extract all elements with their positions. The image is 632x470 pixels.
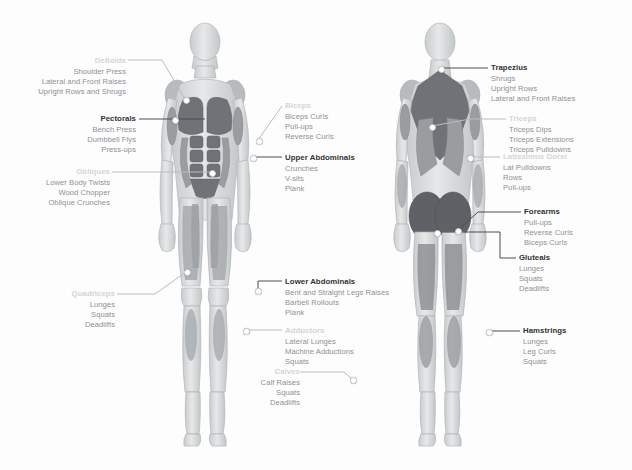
left-foot bbox=[184, 434, 201, 446]
callout-forearms-exercise-2: Reverse Curls bbox=[524, 228, 614, 238]
right-foot-back bbox=[444, 434, 461, 446]
callout-gluteals-exercise-1: Lunges bbox=[519, 264, 599, 274]
callout-upper-abdominals[interactable]: Upper Abdominals Crunches V-sits Plank bbox=[285, 152, 383, 195]
callout-trapezius[interactable]: Trapezius Shrugs Upright Rows Lateral an… bbox=[491, 62, 605, 105]
callout-quadriceps-exercise-3: Deadlifts bbox=[42, 320, 115, 330]
callout-gluteals-exercise-2: Squats bbox=[519, 274, 599, 284]
callout-forearms[interactable]: Forearms Pull-ups Reverse Curls Biceps C… bbox=[524, 206, 614, 249]
marker-dot-upper-abdominals bbox=[250, 155, 257, 162]
callout-gluteals[interactable]: Gluteals Lunges Squats Deadlifts bbox=[519, 252, 599, 295]
callout-forearms-exercise-1: Pull-ups bbox=[524, 218, 614, 228]
callout-hamstrings-exercise-1: Lunges bbox=[523, 337, 603, 347]
callout-quadriceps-exercise-1: Lunges bbox=[42, 300, 115, 310]
marker-dot-forearms bbox=[455, 228, 462, 235]
callout-latissimus-dorsi-heading: Latissimus Dorsi bbox=[503, 151, 607, 163]
callout-biceps-exercise-3: Reverse Curls bbox=[285, 132, 365, 142]
callout-upper-abdominals-exercise-3: Plank bbox=[285, 184, 383, 194]
callout-latissimus-dorsi-exercise-2: Rows bbox=[503, 173, 607, 183]
callout-deltoids-exercise-3: Upright Rows and Shrugs bbox=[14, 87, 126, 97]
callout-biceps-exercise-2: Pull-ups bbox=[285, 122, 365, 132]
marker-dot-calves bbox=[350, 377, 357, 384]
left-ankle bbox=[185, 392, 200, 434]
callout-calves-exercise-3: Deadlifts bbox=[228, 398, 300, 408]
callout-trapezius-exercise-1: Shrugs bbox=[491, 74, 605, 84]
callout-obliques-exercise-2: Wood Chopper bbox=[8, 188, 110, 198]
callout-lower-abdominals-exercise-2: Barbell Rollouts bbox=[285, 298, 403, 308]
callout-lower-abdominals-exercise-3: Plank bbox=[285, 308, 403, 318]
skull-shape bbox=[190, 23, 220, 61]
callout-triceps-exercise-1: Triceps Dips bbox=[509, 125, 609, 135]
left-hand bbox=[159, 224, 176, 252]
callout-hamstrings[interactable]: Hamstrings Lunges Leg Curls Squats bbox=[523, 325, 603, 368]
callout-quadriceps-exercise-2: Squats bbox=[42, 310, 115, 320]
callout-adductors-exercise-1: Lateral Lunges bbox=[285, 337, 385, 347]
callout-obliques-heading: Obliques bbox=[8, 166, 110, 178]
callout-triceps[interactable]: Triceps Triceps Dips Triceps Extensions … bbox=[509, 113, 609, 156]
calves-muscle-back bbox=[419, 316, 461, 368]
left-hand-back bbox=[394, 224, 411, 252]
marker-dot-quadriceps bbox=[184, 269, 191, 276]
left-foot-back bbox=[419, 434, 436, 446]
callout-lower-abdominals-heading: Lower Abdominals bbox=[285, 276, 403, 288]
callout-lower-abdominals[interactable]: Lower Abdominals Bent and Straight Legs … bbox=[285, 276, 403, 319]
callout-calves-exercise-2: Squats bbox=[228, 388, 300, 398]
right-forearm bbox=[237, 160, 250, 225]
callout-deltoids[interactable]: Deltoids Shoulder Press Lateral and Fron… bbox=[14, 55, 126, 98]
callout-adductors-heading: Adductors bbox=[285, 325, 385, 337]
right-foot bbox=[209, 434, 226, 446]
marker-dot-gluteals bbox=[434, 230, 441, 237]
callout-biceps-heading: Biceps bbox=[285, 100, 365, 112]
left-knee bbox=[181, 288, 201, 306]
muscle-chart-canvas: Deltoids Shoulder Press Lateral and Fron… bbox=[0, 0, 632, 470]
callout-deltoids-exercise-2: Lateral and Front Raises bbox=[14, 77, 126, 87]
callout-pectorals[interactable]: Pectorals Bench Press Dumbbell Flys Pres… bbox=[24, 113, 136, 156]
right-ankle-back bbox=[445, 392, 460, 434]
callout-gluteals-heading: Gluteals bbox=[519, 252, 599, 264]
callout-deltoids-heading: Deltoids bbox=[14, 55, 126, 67]
callout-adductors-exercise-2: Machine Adductions bbox=[285, 347, 385, 357]
callout-trapezius-heading: Trapezius bbox=[491, 62, 605, 74]
callout-upper-abdominals-heading: Upper Abdominals bbox=[285, 152, 383, 164]
callout-forearms-heading: Forearms bbox=[524, 206, 614, 218]
callout-hamstrings-exercise-2: Leg Curls bbox=[523, 347, 603, 357]
callout-forearms-exercise-3: Biceps Curls bbox=[524, 238, 614, 248]
callout-biceps-exercise-1: Biceps Curls bbox=[285, 112, 365, 122]
marker-dot-lower-abdominals bbox=[255, 288, 262, 295]
callout-lower-abdominals-exercise-1: Bent and Straight Legs Raises bbox=[285, 288, 403, 298]
callout-triceps-heading: Triceps bbox=[509, 113, 609, 125]
right-knee bbox=[208, 288, 228, 306]
left-ankle-back bbox=[420, 392, 435, 434]
right-hand bbox=[235, 224, 252, 252]
hamstrings-muscle bbox=[417, 244, 462, 310]
callout-triceps-exercise-2: Triceps Extensions bbox=[509, 135, 609, 145]
right-ankle bbox=[210, 392, 225, 434]
marker-dot-hamstrings bbox=[486, 329, 493, 336]
marker-dot-triceps bbox=[429, 124, 436, 131]
callout-deltoids-exercise-1: Shoulder Press bbox=[14, 67, 126, 77]
right-hand-back bbox=[470, 224, 487, 252]
callout-quadriceps-heading: Quadriceps bbox=[42, 288, 115, 300]
marker-dot-pectorals bbox=[172, 117, 179, 124]
calves-muscle bbox=[185, 309, 225, 361]
marker-dot-biceps bbox=[256, 138, 263, 145]
callout-latissimus-dorsi-exercise-1: Lat Pulldowns bbox=[503, 163, 607, 173]
callout-adductors[interactable]: Adductors Lateral Lunges Machine Adducti… bbox=[285, 325, 385, 368]
callout-upper-abdominals-exercise-2: V-sits bbox=[285, 174, 383, 184]
callout-obliques-exercise-3: Oblique Crunches bbox=[8, 198, 110, 208]
skull-back-shape bbox=[425, 23, 455, 61]
callout-calves-heading: Calves bbox=[228, 366, 300, 378]
callout-quadriceps[interactable]: Quadriceps Lunges Squats Deadlifts bbox=[42, 288, 115, 331]
callout-obliques[interactable]: Obliques Lower Body Twists Wood Chopper … bbox=[8, 166, 110, 209]
callout-adductors-exercise-3: Squats bbox=[285, 357, 385, 367]
callout-pectorals-heading: Pectorals bbox=[24, 113, 136, 125]
callout-obliques-exercise-1: Lower Body Twists bbox=[8, 178, 110, 188]
marker-dot-obliques bbox=[209, 170, 216, 177]
callout-latissimus-dorsi-exercise-3: Pull-ups bbox=[503, 183, 607, 193]
marker-dot-trapezius bbox=[438, 66, 445, 73]
callout-biceps[interactable]: Biceps Biceps Curls Pull-ups Reverse Cur… bbox=[285, 100, 365, 143]
callout-calves[interactable]: Calves Calf Raises Squats Deadlifts bbox=[228, 366, 300, 409]
callout-pectorals-exercise-2: Dumbbell Flys bbox=[24, 135, 136, 145]
callout-trapezius-exercise-3: Lateral and Front Raises bbox=[491, 94, 605, 104]
callout-latissimus-dorsi[interactable]: Latissimus Dorsi Lat Pulldowns Rows Pull… bbox=[503, 151, 607, 194]
left-forearm bbox=[160, 160, 173, 225]
